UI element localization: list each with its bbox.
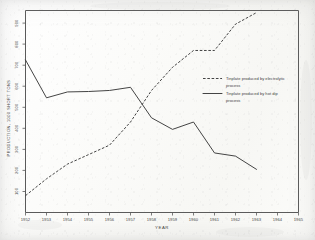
x-tick-label: 1954 (63, 217, 73, 222)
y-tick-label: 800 (14, 40, 19, 48)
x-tick-label: 1955 (84, 217, 94, 222)
x-tick-label: 1957 (126, 217, 136, 222)
y-tick-label: 200 (14, 166, 19, 174)
x-tick-label: 1952 (21, 217, 31, 222)
series-group (26, 13, 257, 196)
x-tick-label: 1962 (231, 217, 241, 222)
chart-figure: 100 200 300 400 500 600 700 800 900 PROD… (0, 0, 315, 240)
legend-label-electrolytic-line1: Tinplate produced by electrolytic (226, 76, 285, 81)
x-tick-label: 1958 (147, 217, 157, 222)
y-tick-label: 700 (14, 61, 19, 69)
chart-legend: Tinplate produced by electrolytic proces… (203, 76, 285, 103)
legend-label-hot-dip-line1: Tinplate produced by hot dip (226, 91, 278, 96)
y-tick-label: 400 (14, 124, 19, 132)
x-tick-label: 1965 (294, 217, 304, 222)
legend-label-hot-dip-line2: process (226, 98, 240, 103)
y-tick-labels: 100 200 300 400 500 600 700 800 900 (14, 19, 19, 195)
series-line-hot-dip (26, 60, 257, 169)
x-tick-label: 1963 (252, 217, 262, 222)
plot-frame (26, 11, 299, 213)
x-axis-title: YEAR (155, 225, 169, 230)
series-line-electrolytic (26, 13, 257, 196)
x-tick-label: 1960 (189, 217, 199, 222)
x-tick-labels: 1952 1953 1954 1955 1956 1957 1958 1959 … (21, 217, 304, 222)
y-tick-label: 500 (14, 103, 19, 111)
x-tick-label: 1956 (105, 217, 115, 222)
y-tick-label: 300 (14, 145, 19, 153)
x-tick-label: 1964 (273, 217, 283, 222)
legend-label-electrolytic-line2: process (226, 83, 240, 88)
y-tick-label: 100 (14, 187, 19, 195)
x-tick-label: 1959 (168, 217, 178, 222)
y-tick-label: 600 (14, 82, 19, 90)
x-tick-label: 1953 (42, 217, 52, 222)
y-axis-title: PRODUCTION, 1000 SHORT TONS (6, 80, 11, 157)
y-tick-label: 900 (14, 19, 19, 27)
x-tick-label: 1961 (210, 217, 220, 222)
scan-artifacts (18, 2, 312, 237)
